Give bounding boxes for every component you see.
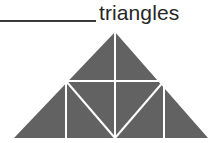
outer-triangle-shape (14, 32, 208, 138)
question-row: triangles (0, 0, 214, 30)
unit-label: triangles (99, 0, 179, 26)
answer-blank-line[interactable] (0, 20, 96, 22)
